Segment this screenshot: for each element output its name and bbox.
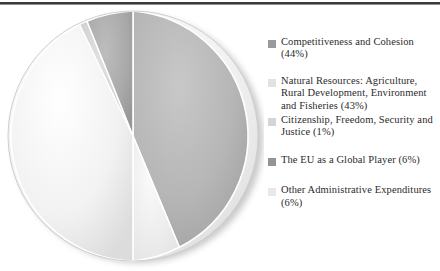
- top-rule-secondary: [0, 4, 440, 5]
- legend-item-other-administrative: Other Administrative Expenditures (6%): [268, 184, 440, 209]
- legend-swatch-icon: [268, 79, 276, 87]
- legend-swatch-icon: [268, 188, 276, 196]
- pie-chart-svg: [2, 8, 264, 271]
- pie-chart: [2, 8, 264, 271]
- legend-swatch-icon: [268, 40, 276, 48]
- figure-page: Competitiveness and Cohesion (44%) Natur…: [0, 0, 440, 271]
- legend-item-competitiveness: Competitiveness and Cohesion (44%): [268, 36, 440, 61]
- legend: Competitiveness and Cohesion (44%) Natur…: [268, 36, 440, 209]
- legend-item-label: Other Administrative Expenditures (6%): [281, 184, 440, 209]
- legend-item-natural-resources: Natural Resources: Agriculture, Rural De…: [268, 75, 440, 112]
- legend-item-label: Competitiveness and Cohesion (44%): [281, 36, 440, 61]
- legend-swatch-icon: [268, 118, 276, 126]
- legend-item-label: Citizenship, Freedom, Security and Justi…: [281, 114, 440, 139]
- legend-item-eu-global-player: The EU as a Global Player (6%): [268, 154, 440, 166]
- legend-item-label: Natural Resources: Agriculture, Rural De…: [281, 75, 440, 112]
- legend-swatch-icon: [268, 158, 276, 166]
- legend-item-label: The EU as a Global Player (6%): [281, 154, 420, 166]
- legend-item-citizenship: Citizenship, Freedom, Security and Justi…: [268, 114, 440, 139]
